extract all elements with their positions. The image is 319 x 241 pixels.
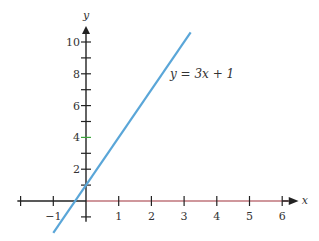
y-tick-label: 4 [73,131,80,144]
y-axis-label: y [82,9,90,22]
y-tick-label: 2 [73,163,80,176]
chart: xy−1123456246810 [0,0,319,241]
x-tick-label: 4 [213,210,220,223]
equation-label: y = 3x + 1 [170,67,234,81]
x-axis-arrow-icon [289,197,299,205]
y-tick-label: 10 [66,36,80,49]
x-axis-label: x [302,194,309,207]
y-tick-label: 8 [73,68,80,81]
y-axis-arrow-icon [82,26,90,34]
x-tick-label: 5 [246,210,253,223]
x-tick-label: −1 [45,210,61,223]
x-tick-label: 6 [279,210,286,223]
y-tick-label: 6 [73,100,80,113]
x-tick-label: 1 [115,210,122,223]
x-tick-label: 3 [181,210,188,223]
x-tick-label: 2 [148,210,155,223]
